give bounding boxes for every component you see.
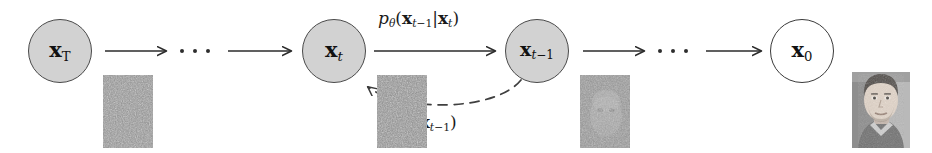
swatch-noise-x-T	[103, 75, 153, 148]
swatch-noise-x-t	[377, 75, 427, 148]
swatches-layer	[0, 0, 932, 153]
diffusion-diagram: xT xt xt−1 x0 pθ(xt−1|xt) q(xt|xt−1)	[0, 0, 932, 153]
swatch-faint-face-x-t-minus-1	[580, 75, 630, 148]
swatch-face-x-0	[852, 72, 910, 148]
